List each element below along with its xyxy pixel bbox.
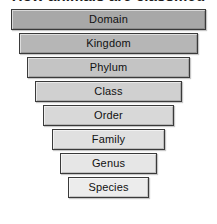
taxonomy-rank-stack: DomainKingdomPhylumClassOrderFamilyGenus… (0, 0, 217, 224)
rank-label: Order (94, 110, 123, 121)
rank-box-species: Species (68, 177, 149, 198)
rank-box-order: Order (43, 105, 174, 126)
rank-label: Genus (92, 158, 125, 169)
rank-label: Family (92, 134, 125, 145)
rank-label: Species (88, 182, 128, 193)
taxonomy-hierarchy-diagram: How animals are classified DomainKingdom… (0, 0, 217, 224)
rank-label: Domain (89, 14, 128, 25)
rank-box-kingdom: Kingdom (19, 33, 198, 54)
rank-label: Kingdom (86, 38, 130, 49)
rank-box-phylum: Phylum (27, 57, 190, 78)
rank-box-genus: Genus (60, 153, 157, 174)
rank-label: Phylum (90, 62, 128, 73)
rank-box-family: Family (52, 129, 165, 150)
rank-box-domain: Domain (11, 9, 206, 30)
rank-label: Class (94, 86, 122, 97)
rank-box-class: Class (35, 81, 182, 102)
